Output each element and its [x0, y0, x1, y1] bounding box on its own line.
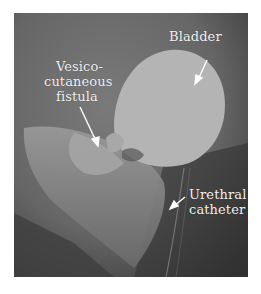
- fistula-label-line3: fistula: [56, 90, 98, 104]
- fistula-label-line2: cutaneous: [44, 75, 112, 89]
- catheter-label-line1: Urethral: [189, 188, 246, 202]
- fistula-label-line1: Vesico-: [56, 60, 103, 74]
- xray-image: Bladder Vesico- cutaneous fistula Urethr…: [14, 13, 248, 277]
- bladder-label: Bladder: [169, 30, 222, 44]
- catheter-label-line2: catheter: [189, 203, 245, 217]
- xray-scene: [14, 13, 248, 277]
